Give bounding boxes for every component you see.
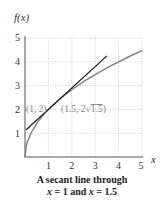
secant-line bbox=[26, 56, 107, 130]
x-tick-4: 4 bbox=[116, 160, 121, 171]
x-tick-1: 1 bbox=[46, 160, 51, 171]
y-tick-2: 2 bbox=[15, 104, 20, 115]
caption-line-2: x = 1 and x = 1.5 bbox=[0, 186, 164, 197]
y-tick-labels: 1 2 3 4 5 bbox=[15, 32, 20, 138]
y-tick-5: 5 bbox=[15, 32, 20, 43]
y-tick-1: 1 bbox=[15, 128, 20, 139]
x-tick-2: 2 bbox=[69, 160, 74, 171]
caption-line-1: A secant line through bbox=[0, 174, 164, 185]
x-axis-label: x bbox=[150, 153, 156, 165]
point-label-1: (1, 2) bbox=[26, 104, 47, 115]
grid bbox=[25, 38, 142, 157]
chart-svg: 1 2 3 4 5 1 2 3 4 5 f(x) x (1, 2) (1.5, … bbox=[0, 0, 164, 200]
point-label-2: (1.5, 2√1.5) bbox=[61, 104, 106, 115]
y-axis-label: f(x) bbox=[14, 11, 30, 24]
x-tick-3: 3 bbox=[93, 160, 98, 171]
y-tick-3: 3 bbox=[15, 80, 20, 91]
x-tick-5: 5 bbox=[139, 160, 144, 171]
x-tick-labels: 1 2 3 4 5 bbox=[46, 160, 144, 171]
y-tick-4: 4 bbox=[15, 56, 20, 67]
svg-text:(1.5, 2√1.5): (1.5, 2√1.5) bbox=[61, 104, 106, 115]
